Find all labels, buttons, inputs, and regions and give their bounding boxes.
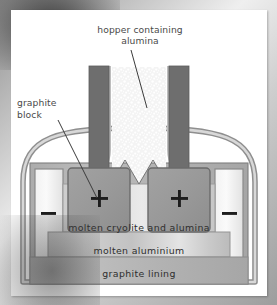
- alumina-fill: [112, 67, 166, 184]
- hopper-label: hopper containing alumina: [85, 24, 195, 46]
- cathode-right-sign-glyph: [222, 212, 237, 215]
- cathode-left-sign-glyph: [41, 212, 56, 215]
- figure-root: hopper containing alumina graphite block…: [0, 0, 277, 305]
- molten-cryolite-label: molten cryolite and alumina: [11, 222, 267, 234]
- electrolysis-cell-figure: hopper containing alumina graphite block…: [11, 10, 267, 296]
- graphite-block-label: graphite block: [17, 97, 89, 121]
- graphite-lining-label: graphite lining: [11, 268, 267, 280]
- molten-aluminium-label: molten aluminium: [11, 245, 267, 257]
